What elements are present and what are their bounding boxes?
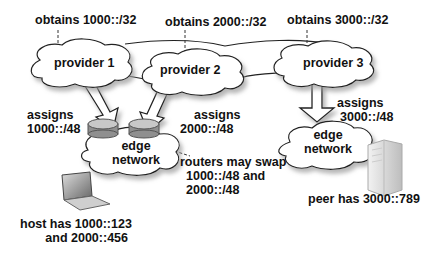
assigns-label-2: assigns 2000::/48 bbox=[180, 108, 241, 136]
provider-3-label: provider 3 bbox=[303, 56, 363, 70]
assigns-label-1: assigns 1000::/48 bbox=[27, 108, 81, 136]
ipv6-multihoming-diagram: obtains 1000::/32 obtains 2000::/32 obta… bbox=[0, 0, 438, 253]
obtains-label-provider-1: obtains 1000::/32 bbox=[35, 13, 136, 27]
host-label: host has 1000::123 and 2000::456 bbox=[20, 217, 128, 245]
router-icon-1 bbox=[88, 119, 118, 138]
routers-note: routers may swap 1000::/48 and 2000::/48 bbox=[180, 155, 286, 197]
server-icon bbox=[368, 140, 402, 196]
edge-network-left-label: edge network bbox=[110, 139, 162, 167]
assigns-label-3: assigns 3000::/48 bbox=[337, 96, 394, 124]
laptop-icon bbox=[62, 172, 110, 210]
obtains-label-provider-2: obtains 2000::/32 bbox=[165, 15, 266, 29]
provider-2-label: provider 2 bbox=[160, 63, 220, 77]
edge-network-right-label: edge network bbox=[302, 128, 354, 156]
router-icon-2 bbox=[129, 119, 159, 138]
provider-1-label: provider 1 bbox=[54, 56, 114, 70]
obtains-label-provider-3: obtains 3000::/32 bbox=[287, 13, 388, 27]
peer-label: peer has 3000::789 bbox=[308, 192, 420, 206]
